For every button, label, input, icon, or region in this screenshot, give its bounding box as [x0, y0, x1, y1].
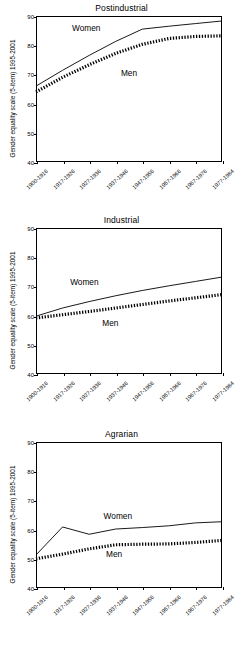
x-tick-label: 1900-1916	[25, 594, 49, 616]
series-layer	[36, 228, 222, 374]
x-tick-label: 1977-1984	[211, 168, 235, 190]
y-tick-label: 80	[27, 43, 34, 49]
series-annotation-men: Men	[102, 318, 118, 328]
x-tick-label: 1937-1946	[105, 594, 129, 616]
x-tick-label: 1917-1926	[52, 168, 76, 190]
y-tick-label: 40	[27, 160, 34, 166]
y-tick-label: 50	[27, 343, 34, 349]
y-tick-label: 90	[27, 226, 34, 232]
series-annotation-men: Men	[121, 68, 137, 78]
x-tick-label: 1967-1976	[185, 380, 209, 402]
series-line-women	[36, 522, 222, 555]
x-tick-label: 1900-1916	[25, 168, 49, 190]
y-tick-label: 40	[27, 586, 34, 592]
x-tick-label: 1917-1926	[52, 594, 76, 616]
y-tick-label: 80	[27, 469, 34, 475]
x-tick-label: 1957-1966	[158, 168, 182, 190]
y-axis-label: Gender equality scale (5-item) 1995-2001	[9, 445, 16, 605]
chart-panel-agrarian: AgrarianGender equality scale (5-item) 1…	[0, 426, 243, 643]
x-tick-label: 1957-1966	[158, 380, 182, 402]
chart-panel-industrial: IndustrialGender equality scale (5-item)…	[0, 212, 243, 429]
series-layer	[36, 16, 222, 162]
series-annotation-men: Men	[106, 549, 122, 559]
x-tick-mark	[223, 161, 224, 164]
x-tick-label: 1977-1984	[211, 380, 235, 402]
series-line-men	[36, 36, 222, 92]
x-tick-label: 1937-1946	[105, 380, 129, 402]
x-tick-label: 1927-1936	[78, 594, 102, 616]
x-axis-labels: 1900-19161917-19261927-19361937-19461947…	[36, 166, 222, 214]
y-tick-label: 40	[27, 372, 34, 378]
x-tick-label: 1967-1976	[185, 594, 209, 616]
y-tick-label: 90	[27, 14, 34, 20]
y-tick-label: 70	[27, 284, 34, 290]
x-tick-label: 1900-1916	[25, 380, 49, 402]
series-line-men	[36, 295, 222, 318]
y-tick-label: 70	[27, 72, 34, 78]
x-tick-label: 1937-1946	[105, 168, 129, 190]
y-tick-label: 80	[27, 255, 34, 261]
y-tick-label: 60	[27, 102, 34, 108]
x-tick-label: 1967-1976	[185, 168, 209, 190]
y-tick-label: 70	[27, 498, 34, 504]
y-tick-label: 60	[27, 314, 34, 320]
chart-panel-postindustrial: PostindustrialGender equality scale (5-i…	[0, 0, 243, 217]
x-tick-label: 1947-1956	[131, 380, 155, 402]
x-axis-labels: 1900-19161917-19261927-19361937-19461947…	[36, 378, 222, 426]
y-tick-label: 50	[27, 131, 34, 137]
x-tick-mark	[223, 587, 224, 590]
series-annotation-women: Women	[72, 23, 100, 33]
y-tick-label: 60	[27, 528, 34, 534]
x-tick-label: 1947-1956	[131, 594, 155, 616]
x-tick-label: 1977-1984	[211, 594, 235, 616]
series-annotation-women: Women	[104, 511, 132, 521]
x-tick-label: 1917-1926	[52, 380, 76, 402]
panel-title: Agrarian	[0, 429, 243, 439]
panel-title: Industrial	[0, 215, 243, 225]
x-tick-mark	[223, 373, 224, 376]
y-tick-label: 50	[27, 557, 34, 563]
series-annotation-women: Women	[70, 277, 98, 287]
y-axis-label: Gender equality scale (5-item) 1995-2001	[9, 19, 16, 179]
y-axis-label: Gender equality scale (5-item) 1995-2001	[9, 231, 16, 391]
x-tick-label: 1957-1966	[158, 594, 182, 616]
x-axis-labels: 1900-19161917-19261927-19361937-19461947…	[36, 592, 222, 640]
series-line-men	[36, 540, 222, 558]
panel-title: Postindustrial	[0, 3, 243, 13]
x-tick-label: 1947-1956	[131, 168, 155, 190]
x-tick-label: 1927-1936	[78, 168, 102, 190]
y-tick-label: 90	[27, 440, 34, 446]
x-tick-label: 1927-1936	[78, 380, 102, 402]
